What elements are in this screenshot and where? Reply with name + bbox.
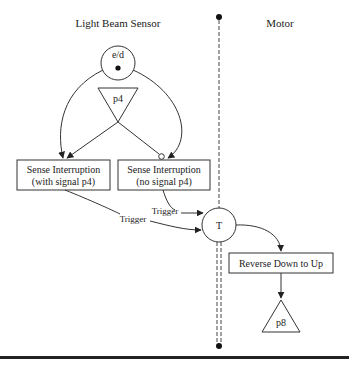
arc-p4-inhibitor (118, 122, 159, 154)
token-dot (115, 65, 120, 70)
place-p8-label: p8 (276, 317, 286, 328)
transition-sense-no-signal[interactable]: Sense Interruption (no signal p4) (118, 160, 210, 190)
lane-separator (216, 14, 222, 349)
place-ed-label: e/d (112, 49, 124, 60)
separator-bottom-dot (216, 343, 222, 349)
arc-ed-to-sense-no (133, 70, 182, 158)
arc-sense-with-to-label (65, 190, 120, 214)
transition-sense-with-signal[interactable]: Sense Interruption (with signal p4) (17, 160, 110, 190)
place-ed[interactable]: e/d (101, 46, 135, 80)
sense-with-line1: Sense Interruption (27, 164, 101, 175)
sync-node-t[interactable]: T (202, 208, 236, 242)
sense-no-line2: (no signal p4) (136, 176, 192, 188)
sense-with-line2: (with signal p4) (32, 176, 95, 188)
arc-ed-to-sense-with (60, 70, 103, 158)
arc-trigger-with-signal (150, 221, 201, 230)
trigger-label-no-signal: Trigger (152, 206, 179, 216)
lane-title-motor: Motor (266, 17, 294, 29)
place-p8[interactable]: p8 (262, 300, 300, 332)
inhibitor-circle-icon (159, 154, 165, 160)
sync-node-label: T (216, 220, 222, 231)
lane-title-light-beam-sensor: Light Beam Sensor (76, 17, 161, 29)
place-p4-label: p4 (113, 93, 123, 104)
trigger-label-with-signal: Trigger (120, 214, 147, 224)
bottom-divider (0, 356, 349, 359)
reverse-label: Reverse Down to Up (239, 258, 323, 269)
sense-no-line1: Sense Interruption (127, 164, 201, 175)
separator-top-dot (216, 14, 222, 20)
transition-reverse-down-to-up[interactable]: Reverse Down to Up (229, 253, 333, 273)
diagram-canvas: Light Beam Sensor Motor e/d p4 Sense Int… (0, 0, 349, 367)
arc-t-to-reverse (236, 225, 281, 251)
place-p4[interactable]: p4 (98, 88, 138, 122)
arc-p4-to-sense-with (67, 122, 118, 158)
